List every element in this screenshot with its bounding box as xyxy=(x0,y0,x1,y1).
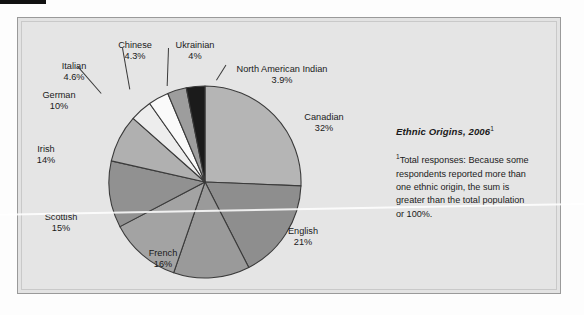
slice-label-german-value: 10% xyxy=(31,101,87,112)
figure-frame: Chinese 4.3% Ukrainian 4% Italian 4.6% N… xyxy=(17,17,561,294)
slice-label-north-american-indian-value: 3.9% xyxy=(220,75,344,86)
slice-label-german: German 10% xyxy=(31,90,87,112)
leader-line-ukrainian xyxy=(167,48,169,86)
slice-label-scottish-value: 15% xyxy=(34,223,88,234)
slice-label-north-american-indian-name: North American Indian xyxy=(237,64,328,74)
scan-artifact-bar xyxy=(0,0,46,4)
slice-label-canadian: Canadian 32% xyxy=(295,112,353,134)
slice-label-canadian-name: Canadian xyxy=(304,112,343,122)
slice-label-ukrainian-value: 4% xyxy=(164,51,226,62)
slice-label-german-name: German xyxy=(42,90,75,100)
slice-label-canadian-value: 32% xyxy=(295,123,353,134)
slice-label-north-american-indian: North American Indian 3.9% xyxy=(220,64,344,86)
figure-page: Chinese 4.3% Ukrainian 4% Italian 4.6% N… xyxy=(0,0,584,315)
slice-label-irish-name: Irish xyxy=(37,144,54,154)
caption-note-text: Total responses: Because some respondent… xyxy=(396,155,529,219)
slice-label-english-value: 21% xyxy=(278,237,328,248)
slice-label-english-name: English xyxy=(288,226,318,236)
slice-label-english: English 21% xyxy=(278,226,328,248)
slice-label-irish: Irish 14% xyxy=(25,144,67,166)
caption-title: Ethnic Origins, 20061 xyxy=(396,125,532,137)
slice-label-chinese: Chinese 4.3% xyxy=(108,40,162,62)
caption-block: Ethnic Origins, 20061 1Total responses: … xyxy=(396,125,532,221)
slice-label-ukrainian-name: Ukrainian xyxy=(176,40,215,50)
slice-label-french-name: French xyxy=(149,248,178,258)
slice-label-french-value: 16% xyxy=(138,259,188,270)
slice-label-french: French 16% xyxy=(138,248,188,270)
caption-title-text: Ethnic Origins, 2006 xyxy=(396,126,490,137)
slice-label-chinese-value: 4.3% xyxy=(108,51,162,62)
slice-label-irish-value: 14% xyxy=(25,155,67,166)
pie-slice-canadian xyxy=(205,86,301,186)
slice-label-ukrainian: Ukrainian 4% xyxy=(164,40,226,62)
caption-title-superscript: 1 xyxy=(490,125,494,132)
pie-chart-svg xyxy=(107,84,303,280)
pie-chart xyxy=(107,84,303,280)
slice-label-scottish: Scottish 15% xyxy=(34,212,88,234)
figure-inner-panel: Chinese 4.3% Ukrainian 4% Italian 4.6% N… xyxy=(21,21,557,290)
slice-label-italian-name: Italian xyxy=(62,61,87,71)
slice-label-scottish-name: Scottish xyxy=(45,212,78,222)
caption-note: 1Total responses: Because some responden… xyxy=(396,150,532,221)
slice-label-italian: Italian 4.6% xyxy=(50,61,98,83)
